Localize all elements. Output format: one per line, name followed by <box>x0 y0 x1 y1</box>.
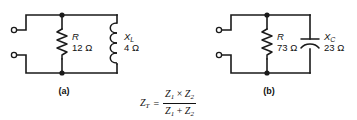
circuit-a-bottom-wire <box>17 55 117 73</box>
circuit-b-resistor-value: 73 Ω <box>277 42 297 53</box>
circuit-b-resistor-symbol-text: R <box>277 31 284 42</box>
formula-lhs: ZT <box>140 97 149 110</box>
circuit-b-terminal-top <box>216 27 221 32</box>
circuit-b-caption: (b) <box>253 86 285 96</box>
circuit-a-terminal-bottom <box>11 52 16 57</box>
circuit-a-resistor-label: R <box>72 31 79 42</box>
circuit-a-junction-top <box>59 12 64 17</box>
circuit-b-capacitor-symbol <box>301 39 319 48</box>
circuit-a-terminal-top <box>11 27 16 32</box>
circuit-figure: R 12 Ω XL 4 Ω (a) R 73 Ω XC 23 Ω (b) ZT … <box>0 0 357 120</box>
denominator-operator: + <box>174 105 185 116</box>
circuit-a-group <box>11 12 117 75</box>
denominator-right-subscript: 2 <box>190 110 194 118</box>
numerator-right-subscript: 2 <box>190 93 194 101</box>
capacitor-plate-curved <box>301 44 319 48</box>
circuit-b-group <box>216 12 319 75</box>
formula-fraction: Z1 × Z2 Z1 + Z2 <box>163 88 196 119</box>
circuit-b-terminal-bottom <box>216 52 221 57</box>
circuit-b-bottom-wire <box>222 55 310 73</box>
circuit-a-junction-bottom <box>59 70 64 75</box>
formula-fraction-bar <box>163 103 196 104</box>
circuit-b-resistor-label: R <box>277 31 284 42</box>
circuit-a-inductor-symbol <box>110 23 117 65</box>
circuit-a-resistor-symbol-text: R <box>72 31 79 42</box>
circuit-a-caption: (a) <box>48 86 80 96</box>
circuit-a-top-wire <box>17 15 117 30</box>
circuit-b-junction-top <box>264 12 269 17</box>
circuit-b-capacitor-value: 23 Ω <box>324 42 344 53</box>
formula-lhs-subscript: T <box>146 102 150 110</box>
formula-numerator: Z1 × Z2 <box>163 88 196 102</box>
numerator-operator: × <box>174 88 185 99</box>
circuit-a-resistor-value: 12 Ω <box>72 42 92 53</box>
total-impedance-formula: ZT = Z1 × Z2 Z1 + Z2 <box>140 88 196 119</box>
formula-equals-sign: = <box>153 98 159 109</box>
circuit-a-inductor-value: 4 Ω <box>124 42 139 53</box>
circuit-b-junction-bottom <box>264 70 269 75</box>
formula-denominator: Z1 + Z2 <box>163 105 196 119</box>
circuit-b-resistor-symbol <box>262 29 272 59</box>
circuit-a-resistor-symbol <box>57 29 67 59</box>
